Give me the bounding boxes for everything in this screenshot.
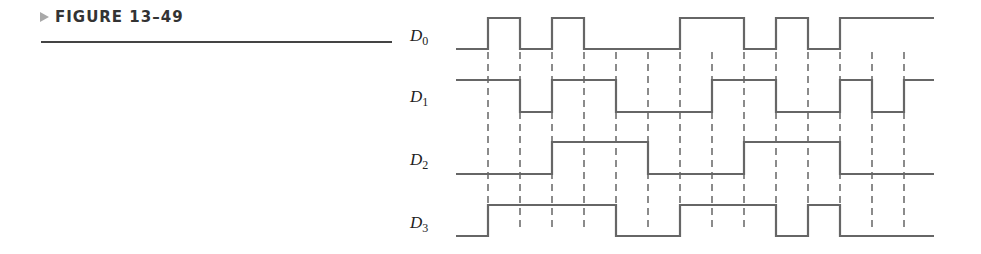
waveform-d0: [456, 18, 934, 49]
signal-label-d3: D3: [409, 213, 428, 235]
signal-label-d2: D2: [409, 150, 428, 172]
waveform-d1: [456, 80, 934, 112]
signal-label-d0: D0: [409, 26, 428, 48]
waveform-d2: [456, 142, 934, 174]
signal-label-d1: D1: [409, 87, 428, 109]
waveform-d3: [456, 205, 934, 236]
timing-diagram: D0D1D2D3: [0, 0, 981, 254]
